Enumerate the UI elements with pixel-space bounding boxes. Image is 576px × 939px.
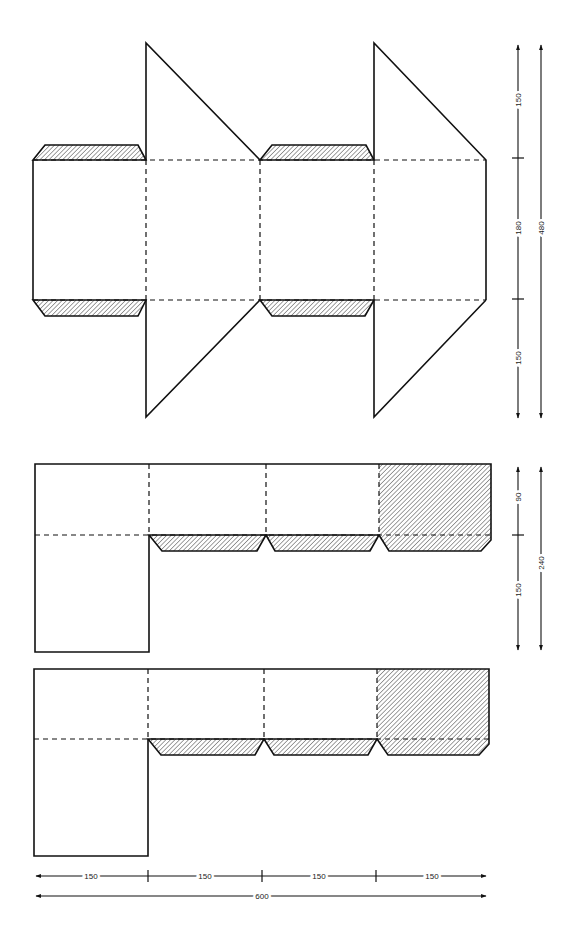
glue-flap-3 [377, 739, 489, 755]
dimension-label: 150 [312, 872, 326, 881]
bottom-net [34, 669, 489, 856]
glue-flap-1 [149, 535, 266, 551]
dimension-label: 150 [84, 872, 98, 881]
glue-panel [377, 669, 489, 739]
dimension-label: 180 [514, 221, 523, 235]
glue-flap-bottom-1 [33, 300, 146, 316]
glue-flap-top-1 [33, 145, 146, 160]
dimension-label: 150 [514, 583, 523, 597]
dimension-label: 150 [514, 93, 523, 107]
glue-flap-1 [148, 739, 264, 755]
glue-panel [379, 464, 491, 535]
dimension-label-total: 240 [537, 556, 546, 570]
glue-flap-top-2 [260, 145, 374, 160]
dimension-label-total: 480 [537, 221, 546, 235]
dimension-label: 90 [514, 492, 523, 501]
dimension-label: 150 [198, 872, 212, 881]
triangle-top-1 [146, 43, 260, 160]
dimension-top-net: 150 180 150 480 [512, 45, 546, 418]
dimension-label-total: 600 [255, 892, 269, 901]
triangle-top-2 [374, 43, 486, 300]
dimension-bottom: 150 150 150 150 600 [36, 870, 486, 901]
dimension-label: 150 [514, 351, 523, 365]
triangle-bottom-2 [374, 300, 486, 417]
glue-flap-3 [379, 535, 491, 551]
box-net-diagram: 150 180 150 480 90 150 240 150 150 150 1… [0, 0, 576, 939]
dimension-label: 150 [425, 872, 439, 881]
glue-flap-2 [264, 739, 377, 755]
middle-net [35, 464, 491, 652]
top-net [33, 43, 486, 417]
triangle-bottom-1 [146, 300, 260, 417]
glue-flap-bottom-2 [260, 300, 374, 316]
dimension-middle-net: 90 150 240 [512, 467, 546, 650]
glue-flap-2 [266, 535, 379, 551]
